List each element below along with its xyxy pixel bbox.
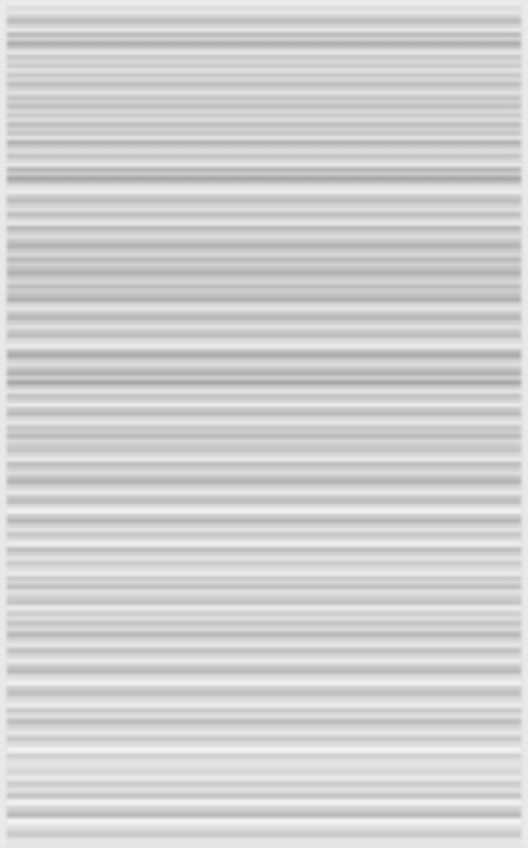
screenshot-root bbox=[0, 0, 528, 848]
page-left-margin bbox=[0, 0, 7, 848]
page-right-margin bbox=[521, 0, 528, 848]
text-line-band bbox=[0, 768, 528, 775]
text-line-band bbox=[0, 799, 528, 806]
text-line-band bbox=[0, 759, 528, 768]
text-line-band bbox=[0, 838, 528, 848]
text-line-band bbox=[0, 831, 528, 838]
motion-blur-layer bbox=[0, 0, 528, 848]
text-line-band-layer bbox=[0, 0, 528, 848]
text-line-band bbox=[0, 818, 528, 825]
